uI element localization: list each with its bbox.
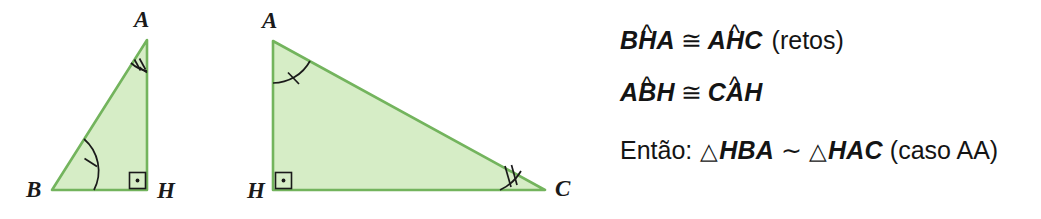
triangle-BHA-group: A B H [25, 7, 176, 203]
vertex-label-A-right: A [260, 8, 277, 33]
conclusion-prefix: Então: [620, 136, 692, 164]
congruent-icon: ≅ [675, 26, 708, 54]
vertex-label-H-right: H [246, 178, 266, 203]
angle-AHC-pre: A [708, 26, 726, 54]
triangle-HAC-label: HAC [828, 136, 883, 164]
proof-line-2: AB^H≅CA^H [620, 80, 763, 105]
triangle-glyph-icon: △ [692, 138, 719, 164]
vertex-label-C-right: C [555, 176, 571, 201]
angle-ABH-vertex-letter: B [638, 78, 656, 106]
proof-line-1: BH^A≅AH^C(retos) [620, 28, 844, 53]
angle-AHC-post: C [744, 26, 762, 54]
similar-icon: ∼ [774, 136, 809, 164]
angle-AHC-vertex: H^ [726, 28, 744, 53]
triangle-HAC-group: A H C [246, 8, 571, 203]
geometry-figure: A B H A H C [0, 0, 1041, 219]
angle-AHC-vertex-letter: H [726, 26, 744, 54]
angle-BHA-post: A [657, 26, 675, 54]
triangle-glyph-icon: △ [809, 138, 828, 164]
angle-BHA: BH^A [620, 26, 675, 54]
angle-ABH-pre: A [620, 78, 638, 106]
angle-AHC: AH^C [708, 26, 763, 54]
vertex-label-B-left: B [25, 177, 41, 202]
proof-line-1-note: (retos) [763, 26, 844, 54]
vertex-label-A-left: A [132, 7, 149, 32]
vertex-label-H-left: H [156, 178, 176, 203]
angle-ABH-post: H [657, 78, 675, 106]
congruent-icon: ≅ [675, 78, 708, 106]
angle-ABH-vertex: B^ [638, 80, 656, 105]
triangle-BHA-shape [52, 40, 147, 190]
proof-line-3-note: (caso AA) [883, 136, 998, 164]
proof-text-block: BH^A≅AH^C(retos) AB^H≅CA^H Então:△HBA∼△H… [620, 28, 1035, 208]
angle-BHA-vertex: H^ [638, 28, 656, 53]
angle-CAH: CA^H [708, 78, 763, 106]
angle-CAH-vertex: A^ [726, 80, 744, 105]
angle-ABH: AB^H [620, 78, 675, 106]
angle-CAH-vertex-letter: A [726, 78, 744, 106]
angle-CAH-pre: C [708, 78, 726, 106]
angle-BHA-vertex-letter: H [638, 26, 656, 54]
triangle-HAC-shape [273, 41, 545, 190]
triangle-HBA-label: HBA [719, 136, 774, 164]
angle-CAH-post: H [744, 78, 762, 106]
proof-line-3: Então:△HBA∼△HAC(caso AA) [620, 138, 998, 163]
angle-BHA-pre: B [620, 26, 638, 54]
